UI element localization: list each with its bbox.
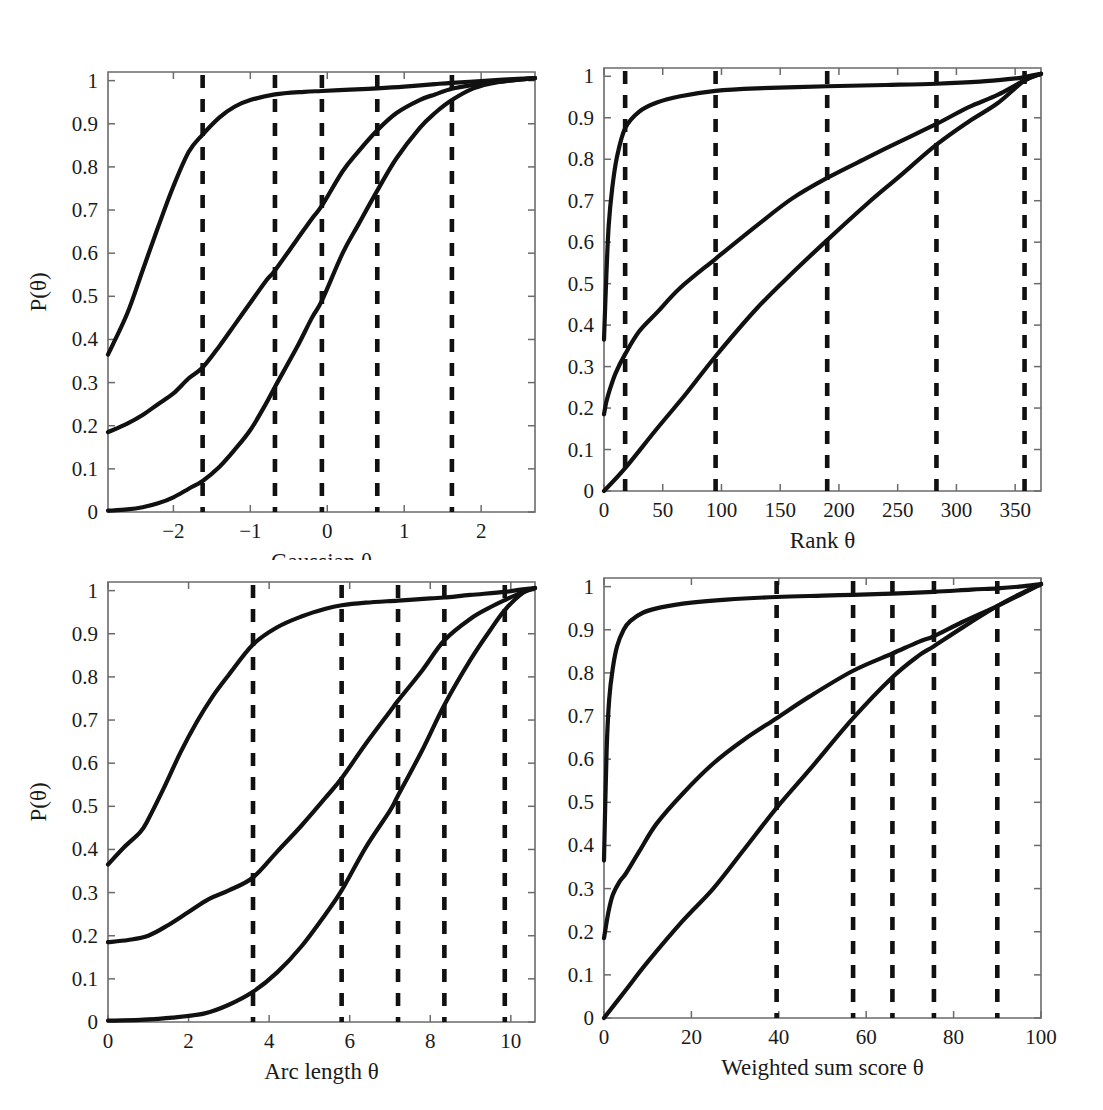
y-tick-label: 0.5	[72, 794, 98, 818]
y-tick-label: 0.9	[568, 618, 594, 642]
y-tick-label: 0.5	[568, 790, 594, 814]
plot-rank: 00.10.20.30.40.50.60.70.80.9105010015020…	[543, 0, 1103, 560]
y-tick-label: 0.4	[72, 837, 99, 861]
x-tick-label: 40	[768, 1025, 789, 1049]
x-axis-title: Arc length θ	[264, 1059, 378, 1084]
x-tick-label: 60	[856, 1025, 877, 1049]
y-tick-label: 0.2	[568, 396, 594, 420]
y-tick-label: 0.5	[72, 284, 98, 308]
y-tick-label: 0.8	[72, 665, 98, 689]
curve-curve-2	[604, 584, 1041, 938]
chart-weighted-sum-score: 00.10.20.30.40.50.60.70.80.9102040608010…	[543, 528, 1103, 1110]
y-tick-label: 0.7	[72, 708, 98, 732]
curve-curve-1	[108, 78, 535, 355]
y-tick-label: 0	[584, 1006, 595, 1030]
x-tick-label: 250	[882, 498, 914, 522]
y-tick-label: 0.7	[568, 704, 594, 728]
x-tick-label: 0	[103, 1029, 114, 1053]
y-tick-label: 0.5	[568, 272, 594, 296]
y-tick-label: 0	[88, 1010, 99, 1034]
curve-curve-1	[108, 588, 535, 865]
x-axis-title: Weighted sum score θ	[721, 1055, 924, 1080]
y-tick-label: 0.9	[72, 112, 98, 136]
y-axis-title: P(θ)	[26, 272, 51, 311]
y-tick-label: 0.2	[72, 924, 98, 948]
figure-canvas: 00.10.20.30.40.50.60.70.80.91−2−1012Gaus…	[0, 0, 1103, 1110]
y-axis-title: P(θ)	[26, 782, 51, 821]
y-tick-label: 0.9	[568, 106, 594, 130]
y-tick-label: 0.3	[72, 371, 98, 395]
x-tick-label: 0	[599, 1025, 610, 1049]
y-tick-label: 0.6	[568, 230, 594, 254]
x-tick-label: 200	[823, 498, 855, 522]
y-tick-label: 0	[584, 479, 595, 503]
y-tick-label: 0.3	[72, 881, 98, 905]
y-tick-label: 0.7	[568, 189, 594, 213]
chart-rank: 00.10.20.30.40.50.60.70.80.9105010015020…	[543, 0, 1103, 560]
plot-gaussian: 00.10.20.30.40.50.60.70.80.91−2−1012Gaus…	[0, 0, 560, 560]
curve-curve-3	[604, 584, 1041, 1018]
y-tick-label: 0.3	[568, 355, 594, 379]
x-tick-label: 6	[344, 1029, 355, 1053]
x-tick-label: 80	[943, 1025, 964, 1049]
x-tick-label: 150	[764, 498, 796, 522]
y-tick-label: 0.4	[72, 327, 99, 351]
y-tick-label: 1	[584, 64, 595, 88]
y-tick-label: 0.2	[568, 920, 594, 944]
x-tick-label: 50	[652, 498, 673, 522]
plot-weighted-sum-score: 00.10.20.30.40.50.60.70.80.9102040608010…	[543, 528, 1103, 1110]
x-tick-label: 2	[183, 1029, 194, 1053]
plot-arc-length: 00.10.20.30.40.50.60.70.80.910246810Arc …	[0, 528, 560, 1110]
x-tick-label: 20	[681, 1025, 702, 1049]
y-tick-label: 1	[88, 579, 99, 603]
y-tick-label: 0.1	[568, 438, 594, 462]
x-tick-label: 8	[425, 1029, 436, 1053]
y-tick-label: 0.4	[568, 313, 595, 337]
curve-curve-2	[108, 588, 535, 942]
y-tick-label: 0.6	[72, 751, 98, 775]
x-tick-label: 0	[599, 498, 610, 522]
y-tick-label: 1	[88, 69, 99, 93]
y-tick-label: 0.4	[568, 833, 595, 857]
x-tick-label: 350	[999, 498, 1031, 522]
y-tick-label: 0.9	[72, 622, 98, 646]
x-tick-label: 100	[706, 498, 738, 522]
x-tick-label: 300	[941, 498, 973, 522]
x-tick-label: 100	[1025, 1025, 1057, 1049]
x-tick-label: 10	[500, 1029, 521, 1053]
y-tick-label: 0.7	[72, 198, 98, 222]
y-tick-label: 0	[88, 500, 99, 524]
y-tick-label: 0.8	[568, 661, 594, 685]
y-tick-label: 0.1	[568, 963, 594, 987]
axis-frame	[604, 68, 1041, 491]
curve-curve-3	[604, 74, 1041, 491]
curve-curve-1	[604, 584, 1041, 861]
chart-arc-length: 00.10.20.30.40.50.60.70.80.910246810Arc …	[0, 528, 560, 1110]
y-tick-label: 0.6	[568, 747, 594, 771]
y-tick-label: 0.1	[72, 457, 98, 481]
y-tick-label: 0.3	[568, 877, 594, 901]
chart-gaussian: 00.10.20.30.40.50.60.70.80.91−2−1012Gaus…	[0, 0, 560, 560]
y-tick-label: 1	[584, 575, 595, 599]
y-tick-label: 0.8	[72, 155, 98, 179]
y-tick-label: 0.8	[568, 147, 594, 171]
axis-frame	[604, 578, 1041, 1018]
y-tick-label: 0.6	[72, 241, 98, 265]
x-tick-label: 4	[264, 1029, 275, 1053]
y-tick-label: 0.2	[72, 414, 98, 438]
y-tick-label: 0.1	[72, 967, 98, 991]
